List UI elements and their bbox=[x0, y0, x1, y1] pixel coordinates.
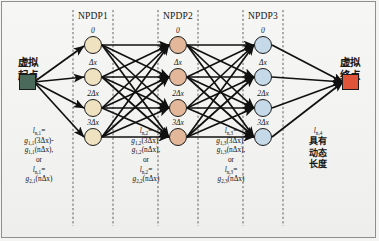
start-terminal-marker[interactable] bbox=[19, 74, 36, 90]
f1-g1-rest: (3Δx)- bbox=[34, 136, 53, 145]
node-label-l3-n1: Δx bbox=[243, 59, 283, 67]
note-ln4-text: 具有 动态 长度 bbox=[288, 136, 348, 171]
f1-eq: = bbox=[41, 126, 45, 135]
node-l1-1[interactable] bbox=[84, 68, 102, 86]
f2-g2-rest: (nΔx), bbox=[142, 145, 161, 154]
note-line2: 动态 bbox=[288, 148, 348, 160]
node-label-l2-n2: 2Δx bbox=[158, 90, 198, 98]
f2-eq2: = bbox=[148, 165, 152, 174]
note-line1: 具有 bbox=[288, 136, 348, 148]
node-label-l3-n2: 2Δx bbox=[243, 90, 283, 98]
node-l3-2[interactable] bbox=[254, 99, 272, 117]
figure-canvas: 虚拟 起点 虚拟 终点 NPDP1 0 Δx 2Δx 3Δx ln,1= g1,… bbox=[0, 0, 379, 241]
note-line3: 长度 bbox=[288, 159, 348, 171]
formula-npdp2: ln,2= g1,2(3Δx)- g1,2(nΔx), or ln,2= g2,… bbox=[115, 126, 177, 184]
f2-g3-rest: (nΔx) bbox=[143, 174, 160, 183]
node-l1-0[interactable] bbox=[84, 36, 102, 54]
f2-eq: = bbox=[148, 126, 152, 135]
note-ln4-symbol: ln,4 bbox=[288, 126, 348, 136]
f1-eq2: = bbox=[41, 165, 45, 174]
node-l2-0[interactable] bbox=[169, 36, 187, 54]
f3-eq2: = bbox=[233, 165, 237, 174]
f1-g2-rest: (nΔx), bbox=[35, 145, 54, 154]
node-l1-3[interactable] bbox=[84, 128, 102, 146]
layer-header-npdp3: NPDP3 bbox=[233, 12, 293, 22]
node-label-l1-n1: Δx bbox=[73, 59, 113, 67]
node-label-l1-n3: 3Δx bbox=[73, 119, 113, 127]
f1-g3-rest: (nΔx) bbox=[36, 174, 53, 183]
f3-g1-rest: (3Δx)- bbox=[226, 136, 245, 145]
layer-header-npdp1: NPDP1 bbox=[63, 12, 123, 22]
formula-npdp1: ln,1= g1,1(3Δx)- g1,1(nΔx), or ln,1= g2,… bbox=[8, 126, 70, 184]
start-terminal-label-line1: 虚拟 bbox=[8, 56, 48, 69]
f2-g1-rest: (3Δx)- bbox=[141, 136, 160, 145]
node-label-l2-n1: Δx bbox=[158, 59, 198, 67]
node-l2-2[interactable] bbox=[169, 99, 187, 117]
f1-or: or bbox=[8, 155, 70, 165]
node-l3-1[interactable] bbox=[254, 68, 272, 86]
node-label-l1-n0: 0 bbox=[73, 27, 113, 35]
node-l3-0[interactable] bbox=[254, 36, 272, 54]
node-label-l2-n0: 0 bbox=[158, 27, 198, 35]
formula-npdp3: ln,3= g1,3(3Δx)- g1,3(nΔx), or ln,3= g2,… bbox=[200, 126, 262, 184]
layer-header-npdp2: NPDP2 bbox=[148, 12, 208, 22]
node-l1-2[interactable] bbox=[84, 99, 102, 117]
f3-eq: = bbox=[233, 126, 237, 135]
node-label-l1-n2: 2Δx bbox=[73, 90, 113, 98]
f3-or: or bbox=[200, 155, 262, 165]
f3-g2-rest: (nΔx), bbox=[227, 145, 246, 154]
f3-g3-rest: (nΔx) bbox=[228, 174, 245, 183]
end-terminal-label-line1: 虚拟 bbox=[330, 56, 370, 69]
node-l2-1[interactable] bbox=[169, 68, 187, 86]
f2-or: or bbox=[115, 155, 177, 165]
node-label-l3-n0: 0 bbox=[243, 27, 283, 35]
end-terminal-marker[interactable] bbox=[342, 74, 359, 90]
